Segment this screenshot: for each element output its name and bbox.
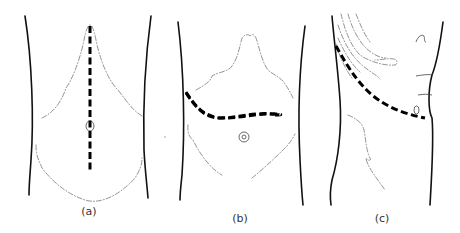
torso-left-outline: [178, 22, 184, 200]
torso-left-outline: [330, 16, 340, 205]
panel-b: (b): [178, 22, 305, 225]
navel-ring-outer: [239, 132, 249, 142]
panel-label: (b): [232, 212, 248, 225]
navel-ring-inner: [242, 135, 246, 139]
torso-right-outline: [299, 26, 305, 205]
hip-contour: [348, 115, 385, 190]
rib-contour-4: [348, 14, 386, 58]
incision-line: [336, 46, 425, 118]
panel-label: (a): [81, 205, 96, 218]
incision-line: [186, 92, 275, 118]
incision-diagram: (a) (b) (c): [0, 0, 460, 233]
rib-contour-1: [341, 14, 397, 65]
nipple-mark: [416, 35, 426, 42]
navel-mark: [414, 106, 419, 114]
panel-label: (c): [375, 212, 390, 225]
panel-a: (a): [25, 16, 151, 218]
rib-cage-contour: [42, 25, 142, 118]
abdominal-fold-1: [416, 75, 433, 76]
torso-right-outline: [144, 16, 151, 198]
rib-cage-contour: [196, 35, 293, 98]
stray-dot: [164, 136, 166, 138]
panel-c: (c): [330, 14, 443, 225]
torso-right-outline: [429, 22, 443, 205]
torso-left-outline: [25, 16, 32, 195]
rib-contour-2: [338, 25, 380, 79]
abdominal-fold-2: [418, 94, 432, 95]
rib-contour-5: [356, 14, 370, 42]
incision-line: [186, 93, 281, 118]
